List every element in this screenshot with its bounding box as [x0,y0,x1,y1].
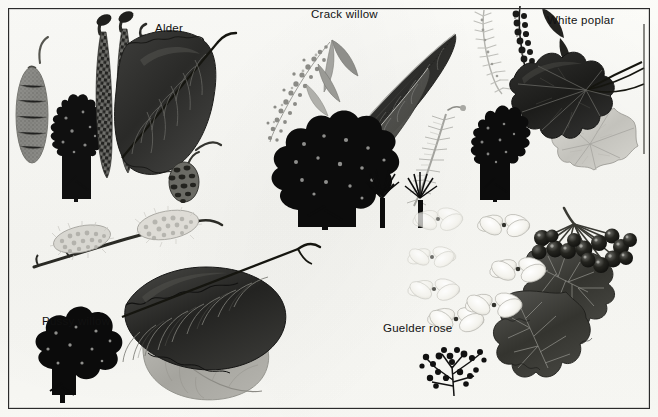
label-guelder-rose: Guelder rose [383,322,452,334]
alder-female-catkin [16,37,48,163]
white-poplar-catkin-pale [474,10,511,94]
specimen-guelder-rose [408,196,658,411]
alder-leaf [115,31,236,175]
specimen-white-poplar [462,4,658,204]
label-alder: Alder [155,22,183,34]
illustration-plate: Alder Crack willow White poplar Pussy wi… [0,0,658,417]
specimen-pussy-willow [30,205,330,405]
label-white-poplar: White poplar [547,14,615,26]
white-poplar-tree-silhouette [471,105,531,202]
pussy-willow-catkins-twig [34,206,222,267]
label-crack-willow: Crack willow [311,8,378,20]
pussy-willow-leaf-upper [122,244,320,373]
label-pussy-willow: Pussy willow [42,315,110,327]
guelder-rose-shrub-silhouette [419,347,486,396]
specimen-alder [0,0,250,215]
